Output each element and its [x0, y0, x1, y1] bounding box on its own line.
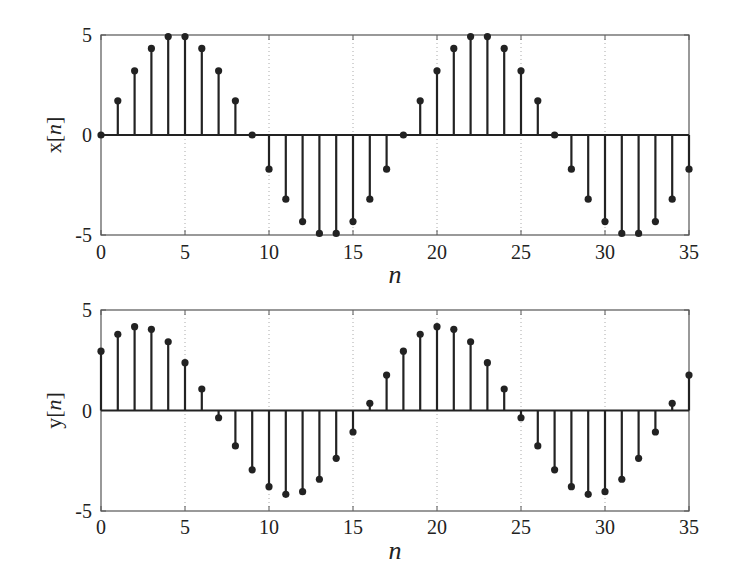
- stem-marker: [618, 476, 625, 483]
- stem-marker: [148, 326, 155, 333]
- stem-marker: [181, 33, 188, 40]
- stem-marker: [618, 230, 625, 237]
- stem-marker: [232, 97, 239, 104]
- stem-marker: [501, 45, 508, 52]
- stem-marker: [517, 414, 524, 421]
- stem-marker: [383, 166, 390, 173]
- stem-marker: [181, 359, 188, 366]
- x-tick-label: 20: [427, 241, 447, 263]
- stem-marker: [534, 97, 541, 104]
- stem-marker: [198, 45, 205, 52]
- stem-marker: [669, 400, 676, 407]
- y-tick-label: 0: [82, 124, 92, 146]
- stem-marker: [165, 33, 172, 40]
- x-tick-label: 35: [679, 241, 699, 263]
- stem-marker: [114, 97, 121, 104]
- stem-marker: [131, 323, 138, 330]
- y-tick-label: 5: [82, 299, 92, 321]
- x-tick-label: 5: [180, 516, 190, 538]
- stem-marker: [417, 97, 424, 104]
- x-tick-label: 30: [595, 241, 615, 263]
- stem-marker: [635, 455, 642, 462]
- stem-marker: [534, 442, 541, 449]
- stem-marker: [282, 196, 289, 203]
- stem-marker: [433, 67, 440, 74]
- stem-marker: [467, 338, 474, 345]
- stem-marker: [316, 476, 323, 483]
- stem-plots: 05101520253035-505nx[n] 05101520253035-5…: [0, 0, 731, 582]
- x-tick-label: 25: [511, 516, 531, 538]
- stem-marker: [97, 348, 104, 355]
- x-axis-label: n: [389, 536, 402, 565]
- x-tick-label: 0: [96, 241, 106, 263]
- stem-marker: [265, 166, 272, 173]
- stem-marker: [215, 67, 222, 74]
- x-tick-label: 30: [595, 516, 615, 538]
- stem-marker: [685, 166, 692, 173]
- stem-marker: [366, 196, 373, 203]
- stem-marker: [198, 385, 205, 392]
- stem-marker: [333, 455, 340, 462]
- stem-marker: [383, 372, 390, 379]
- y-tick-label: -5: [75, 224, 92, 246]
- stem-marker: [148, 45, 155, 52]
- stem-marker: [601, 218, 608, 225]
- stem-marker: [484, 359, 491, 366]
- y-tick-label: 0: [82, 400, 92, 422]
- x-tick-label: 20: [427, 516, 447, 538]
- stem-marker: [114, 331, 121, 338]
- y-axis-label: y[n]: [41, 392, 66, 429]
- x-tick-label: 35: [679, 516, 699, 538]
- stem-marker: [316, 230, 323, 237]
- stem-marker: [249, 466, 256, 473]
- stem-marker: [685, 372, 692, 379]
- stem-marker: [669, 196, 676, 203]
- x-tick-label: 15: [343, 516, 363, 538]
- stem-marker: [652, 428, 659, 435]
- stem-marker: [450, 45, 457, 52]
- stem-marker: [333, 230, 340, 237]
- y-tick-label: 5: [82, 24, 92, 46]
- x-tick-label: 10: [259, 516, 279, 538]
- stem-marker: [551, 131, 558, 138]
- stem-marker: [400, 348, 407, 355]
- stem-marker: [265, 483, 272, 490]
- stem-marker: [400, 131, 407, 138]
- stem-marker: [517, 67, 524, 74]
- x-tick-label: 5: [180, 241, 190, 263]
- stem-marker: [467, 33, 474, 40]
- x-tick-label: 0: [96, 516, 106, 538]
- stem-marker: [131, 67, 138, 74]
- stem-marker: [299, 218, 306, 225]
- stem-marker: [349, 218, 356, 225]
- stem-marker: [484, 33, 491, 40]
- x-tick-label: 25: [511, 241, 531, 263]
- stem-marker: [232, 442, 239, 449]
- stem-marker: [165, 338, 172, 345]
- x-tick-label: 15: [343, 241, 363, 263]
- plot-x-n: 05101520253035-505nx[n]: [41, 24, 699, 289]
- stem-marker: [585, 196, 592, 203]
- stem-marker: [501, 385, 508, 392]
- stem-marker: [433, 323, 440, 330]
- stem-marker: [585, 491, 592, 498]
- stem-marker: [568, 166, 575, 173]
- stem-marker: [635, 230, 642, 237]
- stem-marker: [601, 488, 608, 495]
- stem-marker: [366, 400, 373, 407]
- y-tick-label: -5: [75, 500, 92, 522]
- stem-marker: [299, 488, 306, 495]
- stem-marker: [450, 326, 457, 333]
- x-tick-label: 10: [259, 241, 279, 263]
- stem-marker: [97, 131, 104, 138]
- y-axis-label: x[n]: [41, 117, 66, 154]
- plot-y-n: 05101520253035-505ny[n]: [41, 299, 699, 565]
- stem-marker: [652, 218, 659, 225]
- figure: 05101520253035-505nx[n] 05101520253035-5…: [0, 0, 731, 582]
- stem-marker: [349, 428, 356, 435]
- x-axis-label: n: [389, 260, 402, 289]
- stem-marker: [551, 466, 558, 473]
- stem-marker: [568, 483, 575, 490]
- stem-marker: [249, 131, 256, 138]
- stem-marker: [417, 331, 424, 338]
